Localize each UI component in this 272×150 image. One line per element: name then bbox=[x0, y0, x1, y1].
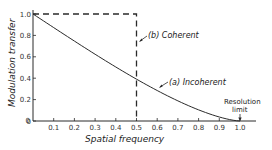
x-tick-label: 0.9 bbox=[214, 124, 225, 132]
incoherent-annotation: (a) Incoherent bbox=[159, 78, 227, 88]
x-tick-label: 0.3 bbox=[90, 124, 101, 132]
x-tick-label: 0.6 bbox=[152, 124, 164, 132]
x-tick-label: 1.0 bbox=[234, 124, 245, 132]
y-tick-label: 0.4 bbox=[20, 75, 32, 83]
x-tick-label: 0.5 bbox=[131, 124, 142, 132]
coherent-annotation: (b) Coherent bbox=[139, 31, 200, 42]
resolution-label-line1: Resolution bbox=[224, 98, 261, 106]
x-tick-label: 0.2 bbox=[69, 124, 80, 132]
y-ticks: 00.20.40.60.81.0 bbox=[20, 11, 36, 126]
incoherent-label: (a) Incoherent bbox=[169, 78, 227, 87]
resolution-limit-annotation: Resolution limit bbox=[224, 98, 261, 121]
y-tick-label: 0.6 bbox=[20, 53, 32, 61]
y-axis-title: Modulation transfer bbox=[7, 17, 17, 107]
resolution-label-line2: limit bbox=[232, 106, 248, 114]
x-tick-label: 0.4 bbox=[110, 124, 122, 132]
x-tick-label: 0.8 bbox=[193, 124, 204, 132]
incoherent-arrowhead bbox=[159, 85, 163, 88]
mtf-chart: 00.20.40.60.81.0 00.10.20.30.40.50.60.70… bbox=[0, 0, 272, 150]
y-tick-label: 0.2 bbox=[20, 96, 31, 104]
x-tick-label: 0 bbox=[26, 117, 30, 125]
coherent-curve bbox=[33, 14, 137, 121]
x-ticks: 00.10.20.30.40.50.60.70.80.91.0 bbox=[26, 117, 246, 132]
x-tick-label: 0.1 bbox=[48, 124, 59, 132]
axes bbox=[33, 10, 256, 121]
y-tick-label: 0.8 bbox=[20, 32, 31, 40]
x-tick-label: 0.7 bbox=[172, 124, 183, 132]
y-tick-label: 1.0 bbox=[20, 11, 31, 19]
coherent-label: (b) Coherent bbox=[148, 31, 200, 40]
x-axis-title: Spatial frequency bbox=[85, 134, 165, 144]
